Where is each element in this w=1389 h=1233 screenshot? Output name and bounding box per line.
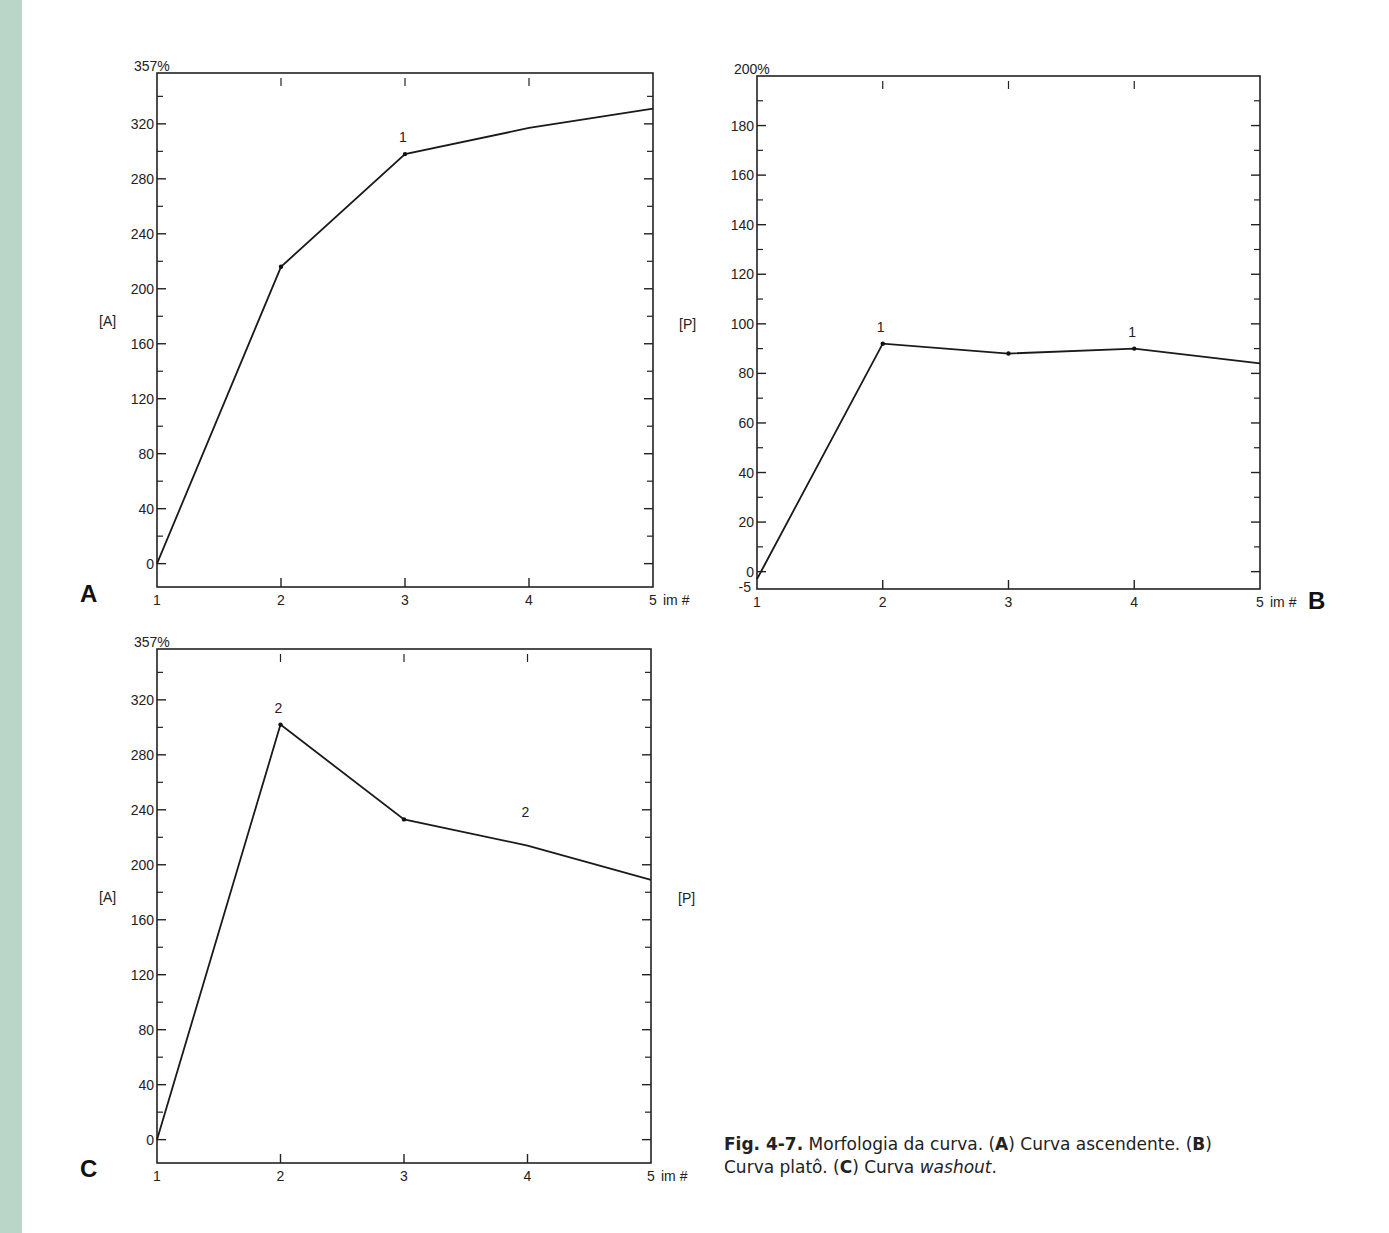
y-tick-label: 100 (731, 316, 755, 332)
y-max-label: 357% (134, 634, 170, 650)
x-tick-label: 3 (400, 1168, 408, 1184)
x-tick-label: 2 (879, 594, 887, 610)
caption-ref-c: C (840, 1157, 852, 1177)
data-line (157, 109, 653, 564)
x-tick-label: 4 (1130, 594, 1138, 610)
caption-text: . (992, 1157, 997, 1177)
y-axis-label-left: [A] (99, 889, 116, 905)
x-tick-label: 4 (524, 1168, 532, 1184)
y-tick-label: 320 (131, 116, 155, 132)
y-tick-label: 120 (131, 967, 155, 983)
y-axis-label: [A] (99, 313, 116, 329)
point-annotation: 1 (1128, 324, 1136, 340)
data-line (157, 725, 651, 1140)
y-tick-label: 280 (131, 747, 155, 763)
x-tick-label: 5 (649, 592, 657, 608)
chart-panel-a: 04080120160200240280320357%12345im #[A]1 (99, 58, 690, 608)
y-max-label: 200% (734, 61, 770, 77)
data-point (278, 722, 282, 726)
data-point (279, 265, 283, 269)
x-tick-label: 5 (647, 1168, 655, 1184)
y-tick-label: 0 (146, 1132, 154, 1148)
y-tick-label: 200 (131, 281, 155, 297)
panel-label-b: B (1308, 587, 1325, 615)
plot-frame (157, 649, 651, 1163)
chart-panel-c: 04080120160200240280320357%12345im #[A][… (99, 634, 695, 1184)
caption-text: ) Curva ascendente. ( (1008, 1134, 1192, 1154)
x-axis-label: im # (1270, 594, 1297, 610)
x-tick-label: 2 (277, 1168, 285, 1184)
x-tick-label: 1 (153, 1168, 161, 1184)
y-tick-label: 40 (138, 1077, 154, 1093)
y-axis-label-right: [P] (678, 890, 695, 906)
point-annotation: 1 (399, 129, 407, 145)
y-tick-label: 200 (131, 857, 155, 873)
x-tick-label: 5 (1256, 594, 1264, 610)
y-tick-label: 240 (131, 226, 155, 242)
caption-washout: washout (920, 1157, 992, 1177)
y-tick-label: 120 (731, 266, 755, 282)
y-tick-label: 80 (738, 365, 754, 381)
x-tick-label: 3 (401, 592, 409, 608)
data-point (1132, 346, 1136, 350)
x-axis-label: im # (661, 1168, 688, 1184)
x-tick-label: 2 (277, 592, 285, 608)
x-tick-label: 4 (525, 592, 533, 608)
panel-label-a: A (80, 580, 97, 608)
y-tick-label: 160 (131, 336, 155, 352)
y-tick-label: 80 (138, 446, 154, 462)
y-tick-label: 140 (731, 217, 755, 233)
data-point (402, 817, 406, 821)
figure-caption: Fig. 4-7. Morfologia da curva. (A) Curva… (724, 1133, 1244, 1179)
y-tick-label: -5 (739, 579, 752, 595)
panel-label-c: C (80, 1155, 97, 1183)
figure-charts: 04080120160200240280320357%12345im #[A]1… (0, 0, 1389, 1233)
data-point (881, 341, 885, 345)
y-tick-label: 320 (131, 692, 155, 708)
y-tick-label: 20 (738, 514, 754, 530)
y-tick-label: 60 (738, 415, 754, 431)
x-tick-label: 1 (153, 592, 161, 608)
y-tick-label: 0 (146, 556, 154, 572)
y-tick-label: 80 (138, 1022, 154, 1038)
y-tick-label: 160 (131, 912, 155, 928)
caption-fig-label: Fig. 4-7. (724, 1134, 803, 1154)
caption-text: ) Curva (852, 1157, 920, 1177)
caption-text: Morfologia da curva. ( (803, 1134, 995, 1154)
point-annotation: 2 (522, 804, 530, 820)
caption-ref-b: B (1192, 1134, 1205, 1154)
y-tick-label: 40 (738, 465, 754, 481)
y-tick-label: 280 (131, 171, 155, 187)
y-tick-label: 180 (731, 118, 755, 134)
data-point (1006, 351, 1010, 355)
x-axis-label: im # (663, 592, 690, 608)
y-tick-label: 240 (131, 802, 155, 818)
plot-frame (157, 73, 653, 587)
point-annotation: 2 (275, 700, 283, 716)
chart-panel-b: 020406080100120140160180-5200%12345im #[… (679, 61, 1297, 610)
y-tick-label: 40 (138, 501, 154, 517)
point-annotation: 1 (877, 319, 885, 335)
y-axis-label: [P] (679, 316, 696, 332)
y-max-label: 357% (134, 58, 170, 74)
x-tick-label: 1 (753, 594, 761, 610)
y-tick-label: 160 (731, 167, 755, 183)
caption-ref-a: A (995, 1134, 1008, 1154)
plot-frame (757, 76, 1260, 589)
y-tick-label: 0 (746, 564, 754, 580)
data-line (757, 344, 1260, 579)
x-tick-label: 3 (1005, 594, 1013, 610)
y-tick-label: 120 (131, 391, 155, 407)
data-point (403, 152, 407, 156)
